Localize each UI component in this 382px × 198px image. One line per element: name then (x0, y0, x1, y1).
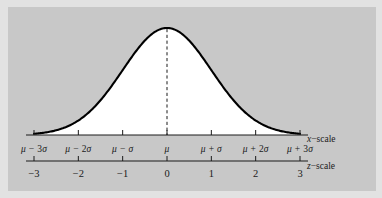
z-scale-tick-label: −3 (28, 169, 39, 180)
x-scale-tick-label: μ − 2σ (65, 145, 91, 155)
x-scale-tick-label: μ + 2σ (243, 145, 269, 155)
x-scale-tick-label: μ − σ (112, 145, 133, 155)
x-scale-tick-label: μ − 3σ (21, 145, 47, 155)
x-scale-tick-label: μ + 3σ (287, 145, 313, 155)
z-scale-tick-label: −2 (73, 169, 84, 180)
z-scale-axis-label: z−scale (307, 162, 335, 172)
z-scale-tick-marks (34, 156, 300, 161)
z-scale-tick-label: 3 (297, 169, 302, 180)
z-scale-tick-label: 1 (209, 169, 214, 180)
x-scale-tick-label: μ + σ (201, 145, 222, 155)
figure-root: μ − 3σμ − 2σμ − σμμ + σμ + 2σμ + 3σ −3−2… (0, 0, 382, 198)
x-scale-axis-label: x−scale (307, 135, 336, 145)
z-scale-tick-label: −1 (117, 169, 128, 180)
x-scale-tick-label: μ (165, 145, 170, 155)
z-scale-tick-label: 0 (164, 169, 169, 180)
z-scale-tick-label: 2 (253, 169, 258, 180)
figure-panel: μ − 3σμ − 2σμ − σμμ + σμ + 2σμ + 3σ −3−2… (8, 7, 376, 191)
